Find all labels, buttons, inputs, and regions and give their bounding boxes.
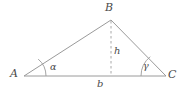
vertex-label-a: A	[10, 68, 18, 79]
base-label: b	[97, 79, 103, 89]
triangle-diagram: A B C α γ h b	[0, 0, 184, 93]
vertex-label-b: B	[105, 2, 113, 13]
segment-ab	[24, 20, 111, 76]
angle-arc-alpha	[38, 59, 46, 76]
angle-label-alpha: α	[50, 62, 56, 72]
triangle-svg	[0, 0, 184, 93]
vertex-label-c: C	[168, 69, 176, 80]
angle-label-gamma: γ	[143, 61, 149, 71]
height-label: h	[114, 46, 120, 56]
